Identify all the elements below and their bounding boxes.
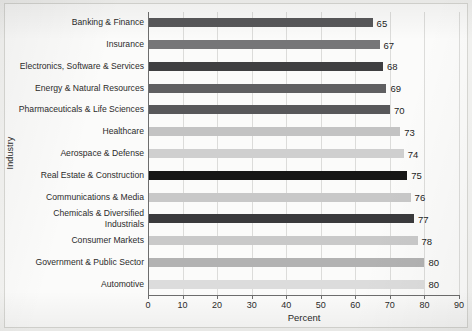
bar-value-label: 69 xyxy=(386,83,401,94)
bar[interactable] xyxy=(148,171,407,180)
x-tick-label: 50 xyxy=(306,300,336,310)
x-tick-mark xyxy=(459,295,460,299)
bar[interactable] xyxy=(148,149,404,158)
bar[interactable] xyxy=(148,258,424,267)
bar[interactable] xyxy=(148,214,414,223)
bar-value-label: 73 xyxy=(400,126,415,137)
category-label: Healthcare xyxy=(2,126,144,137)
bar-row[interactable]: 65 xyxy=(148,18,459,27)
bar-value-label: 78 xyxy=(418,235,433,246)
bar-row[interactable]: 77 xyxy=(148,214,459,223)
x-tick-mark xyxy=(183,295,184,299)
plot-area: 65676869707374757677788080 xyxy=(148,12,459,295)
x-tick-mark xyxy=(321,295,322,299)
category-label: Banking & Finance xyxy=(2,17,144,28)
bar-row[interactable]: 68 xyxy=(148,62,459,71)
x-tick-label: 90 xyxy=(444,300,472,310)
category-label: Government & Public Sector xyxy=(2,257,144,268)
category-label: Communications & Media xyxy=(2,192,144,203)
x-tick-label: 80 xyxy=(409,300,439,310)
bar-row[interactable]: 75 xyxy=(148,171,459,180)
bar-row[interactable]: 76 xyxy=(148,193,459,202)
x-tick-label: 0 xyxy=(133,300,163,310)
bar-value-label: 80 xyxy=(424,257,439,268)
category-label: Chemicals & Diversified Industrials xyxy=(2,208,144,230)
bar[interactable] xyxy=(148,280,424,289)
x-tick-mark xyxy=(217,295,218,299)
x-tick-mark xyxy=(355,295,356,299)
bar-row[interactable]: 74 xyxy=(148,149,459,158)
bar[interactable] xyxy=(148,40,380,49)
bar-value-label: 74 xyxy=(404,148,419,159)
x-tick-label: 20 xyxy=(202,300,232,310)
category-label: Electronics, Software & Services xyxy=(2,61,144,72)
bar-value-label: 70 xyxy=(390,104,405,115)
bar-value-label: 76 xyxy=(411,192,426,203)
x-tick-label: 70 xyxy=(375,300,405,310)
x-tick-mark xyxy=(424,295,425,299)
category-label: Consumer Markets xyxy=(2,235,144,246)
bar-value-label: 68 xyxy=(383,61,398,72)
x-tick-label: 10 xyxy=(168,300,198,310)
bar[interactable] xyxy=(148,18,373,27)
bar-value-label: 77 xyxy=(414,213,429,224)
category-label: Aerospace & Defense xyxy=(2,148,144,159)
x-tick-mark xyxy=(390,295,391,299)
bar-row[interactable]: 80 xyxy=(148,258,459,267)
y-axis-line xyxy=(148,12,149,295)
x-tick-mark xyxy=(148,295,149,299)
bar-value-label: 75 xyxy=(407,170,422,181)
bar[interactable] xyxy=(148,105,390,114)
bar-row[interactable]: 67 xyxy=(148,40,459,49)
x-tick-mark xyxy=(286,295,287,299)
category-label: Real Estate & Construction xyxy=(2,170,144,181)
chart-figure: Industry Percent 0102030405060708090 656… xyxy=(0,0,472,331)
x-axis-line xyxy=(148,295,459,296)
bar-value-label: 80 xyxy=(424,279,439,290)
bar[interactable] xyxy=(148,62,383,71)
x-tick-label: 30 xyxy=(237,300,267,310)
x-axis-title: Percent xyxy=(148,312,460,323)
gridline xyxy=(459,12,460,295)
category-label: Automotive xyxy=(2,279,144,290)
bar-row[interactable]: 73 xyxy=(148,127,459,136)
category-label: Energy & Natural Resources xyxy=(2,83,144,94)
category-label: Insurance xyxy=(2,39,144,50)
bar-value-label: 67 xyxy=(380,39,395,50)
bar-row[interactable]: 80 xyxy=(148,280,459,289)
x-tick-mark xyxy=(252,295,253,299)
bar[interactable] xyxy=(148,84,386,93)
category-label: Pharmaceuticals & Life Sciences xyxy=(2,104,144,115)
bar[interactable] xyxy=(148,127,400,136)
bar[interactable] xyxy=(148,193,411,202)
x-tick-label: 40 xyxy=(271,300,301,310)
bar-value-label: 65 xyxy=(373,17,388,28)
bar-row[interactable]: 70 xyxy=(148,105,459,114)
bar-row[interactable]: 69 xyxy=(148,84,459,93)
bar-row[interactable]: 78 xyxy=(148,236,459,245)
bar[interactable] xyxy=(148,236,418,245)
x-tick-label: 60 xyxy=(340,300,370,310)
